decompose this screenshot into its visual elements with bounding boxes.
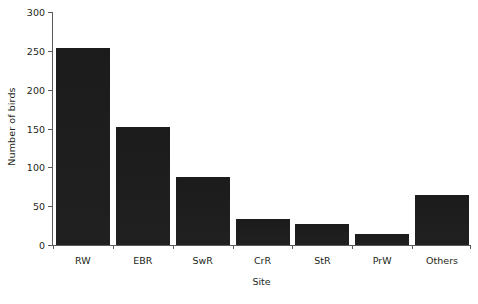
bar xyxy=(236,219,290,245)
bar-chart-figure: Number of birds 050100150200250300 RWEBR… xyxy=(0,0,478,304)
x-axis-tick-label: EBR xyxy=(133,255,152,266)
y-axis-tick-label: 0 xyxy=(39,240,45,251)
x-axis-tick xyxy=(412,245,413,249)
x-axis-line xyxy=(52,245,471,246)
y-axis-tick xyxy=(48,167,52,168)
x-axis-tick xyxy=(233,245,234,249)
y-axis-tick-label: 150 xyxy=(27,123,45,134)
bar xyxy=(415,195,469,245)
y-axis-tick-label: 200 xyxy=(27,84,45,95)
x-axis-tick-label: CrR xyxy=(254,255,271,266)
y-axis-tick-label: 100 xyxy=(27,162,45,173)
y-axis-tick xyxy=(48,206,52,207)
x-axis-tick-label: Others xyxy=(426,255,458,266)
x-axis-tick xyxy=(352,245,353,249)
x-axis-tick-label: RW xyxy=(75,255,91,266)
bar xyxy=(355,234,409,245)
y-axis-title-text: Number of birds xyxy=(6,87,17,165)
y-axis-tick-label: 50 xyxy=(33,201,45,212)
x-axis-tick-label: PrW xyxy=(373,255,392,266)
x-axis-tick-label: StR xyxy=(314,255,330,266)
y-axis-tick-label: 250 xyxy=(27,45,45,56)
y-axis-tick xyxy=(48,245,52,246)
bar xyxy=(176,177,230,245)
y-axis-tick xyxy=(48,12,52,13)
x-axis-title: Site xyxy=(52,276,471,287)
x-axis-tick-label: SwR xyxy=(192,255,212,266)
x-axis-tick xyxy=(173,245,174,249)
y-axis-tick xyxy=(48,129,52,130)
x-axis-tick xyxy=(113,245,114,249)
bar xyxy=(56,48,110,245)
x-axis-tick xyxy=(292,245,293,249)
y-axis-tick-label: 300 xyxy=(27,7,45,18)
bar xyxy=(116,127,170,245)
y-axis-tick xyxy=(48,90,52,91)
y-axis-tick xyxy=(48,51,52,52)
y-axis-title: Number of birds xyxy=(0,0,22,252)
x-axis-tick xyxy=(53,245,54,249)
y-axis-line xyxy=(52,12,53,245)
plot-area: 050100150200250300 RWEBRSwRCrRStRPrWOthe… xyxy=(52,12,471,245)
x-axis-tick xyxy=(470,245,471,249)
bar xyxy=(295,224,349,245)
